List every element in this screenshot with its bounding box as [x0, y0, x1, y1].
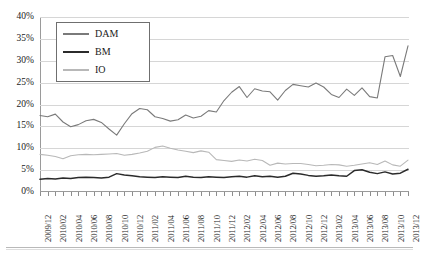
footer-divider-secondary: [6, 249, 413, 250]
y-axis-tick-label: 0%: [0, 187, 34, 197]
x-axis-tick-label: 2013/12: [412, 215, 421, 242]
y-axis-tick-label: 5%: [0, 165, 34, 175]
x-axis-tick-label: 2013/02: [335, 215, 344, 242]
x-axis-tick-label: 2010/04: [75, 215, 84, 242]
legend-swatch-bm: [63, 51, 89, 53]
y-axis-tick-label: 20%: [0, 100, 34, 110]
x-axis-tick-label: 2010/06: [90, 215, 99, 242]
x-axis-tick-label: 2011/04: [167, 215, 176, 242]
y-axis-tick-label: 40%: [0, 12, 34, 22]
y-axis-tick-label: 30%: [0, 56, 34, 66]
y-axis-tick-label: 15%: [0, 121, 34, 131]
legend-label-io: IO: [95, 65, 106, 75]
footer-divider: [6, 247, 413, 248]
x-axis-tick-label: 2011/08: [197, 215, 206, 242]
x-axis-tick-label: 2012/02: [243, 215, 252, 242]
x-axis-tick-label: 2012/08: [289, 215, 298, 242]
x-axis-tick-label: 2012/04: [259, 215, 268, 242]
y-axis-labels: 0%5%10%15%20%25%30%35%40%: [0, 17, 36, 192]
y-axis-tick-label: 10%: [0, 143, 34, 153]
x-axis-tick-label: 2013/10: [397, 215, 406, 242]
x-axis-tick-label: 2011/10: [213, 215, 222, 242]
y-axis-tick-label: 25%: [0, 78, 34, 88]
x-axis-tick-label: 2010/12: [136, 215, 145, 242]
legend-label-dam: DAM: [95, 29, 118, 39]
x-axis-tick-label: 2011/06: [182, 215, 191, 242]
y-axis-tick-label: 35%: [0, 34, 34, 44]
x-axis-tick-label: 2010/02: [59, 215, 68, 242]
legend-item-bm: BM: [63, 45, 111, 59]
legend-label-bm: BM: [95, 47, 111, 57]
x-axis-tick-label: 2012/12: [320, 215, 329, 242]
legend-item-io: IO: [63, 63, 106, 77]
x-axis-tick-label: 2012/10: [305, 215, 314, 242]
x-axis-tick-label: 2009/12: [44, 215, 53, 242]
x-axis-tick-label: 2010/10: [121, 215, 130, 242]
legend-item-dam: DAM: [63, 27, 118, 41]
series-line-io: [40, 146, 408, 166]
x-axis-tick-label: 2013/04: [351, 215, 360, 242]
x-axis-labels: 2009/122010/022010/042010/062010/082010/…: [40, 195, 409, 253]
x-axis-tick-label: 2011/02: [151, 215, 160, 242]
x-axis-tick-label: 2013/08: [381, 215, 390, 242]
x-axis-tick-label: 2013/06: [366, 215, 375, 242]
series-line-bm: [40, 169, 408, 179]
legend-swatch-dam: [63, 33, 89, 35]
x-axis-tick-label: 2012/06: [274, 215, 283, 242]
legend: DAM BM IO: [56, 22, 150, 82]
legend-swatch-io: [63, 69, 89, 71]
x-axis-tick-label: 2010/08: [105, 215, 114, 242]
x-axis-tick-label: 2011/12: [228, 215, 237, 242]
